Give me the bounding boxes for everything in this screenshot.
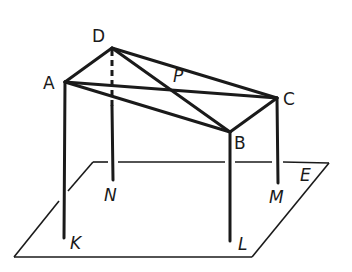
edge-ad: [65, 48, 112, 82]
post-cm: [277, 98, 278, 183]
plane-left-edge-lower: [14, 201, 59, 257]
label-l: L: [238, 234, 247, 254]
label-b: B: [234, 133, 246, 153]
plane-right-edge: [252, 163, 329, 257]
edge-cb: [230, 98, 277, 132]
label-e: E: [300, 165, 311, 185]
label-d: D: [92, 26, 105, 46]
geometry-diagram: A D P C B N M E K L: [0, 0, 352, 272]
edge-dn-visible: [112, 106, 113, 180]
diagonal-db: [112, 48, 230, 132]
plane-back-edge-4: [283, 162, 329, 163]
label-n: N: [104, 185, 117, 205]
label-p: P: [173, 66, 184, 86]
plane-e: [14, 162, 329, 257]
label-a: A: [43, 73, 55, 93]
post-ak: [64, 82, 65, 238]
label-m: M: [269, 187, 284, 207]
label-c: C: [283, 89, 295, 109]
plane-left-edge-upper: [68, 162, 93, 191]
label-k: K: [70, 233, 83, 253]
